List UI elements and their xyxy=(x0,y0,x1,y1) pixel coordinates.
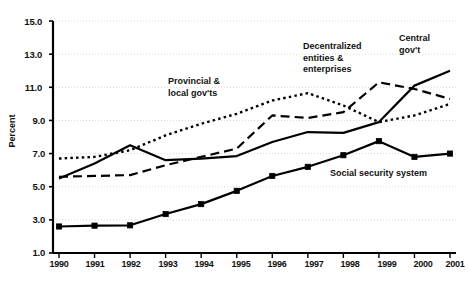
data-series-layer xyxy=(59,71,450,227)
x-tick-label-1995: 1995 xyxy=(223,259,259,269)
y-tick-label-13: 13.0 xyxy=(12,49,42,60)
annotation-decentralized-line3: enterprises xyxy=(303,64,362,76)
annotation-leader xyxy=(413,57,423,70)
y-tick-label-5: 5.0 xyxy=(15,181,45,192)
annotation-central-govt: Central gov't xyxy=(399,33,430,56)
axis-lines xyxy=(53,21,456,253)
data-point-marker xyxy=(305,164,310,169)
y-tick-label-3: 3.0 xyxy=(15,214,45,225)
data-point-marker xyxy=(199,202,204,207)
annotation-social-security-system: Social security system xyxy=(330,168,427,180)
y-tick-label-9: 9.0 xyxy=(15,115,45,126)
x-tick-label-1996: 1996 xyxy=(259,259,295,269)
y-tick-label-1: 1.0 xyxy=(15,247,45,258)
data-point-marker xyxy=(341,153,346,158)
x-tick-label-1994: 1994 xyxy=(186,259,222,269)
data-point-marker xyxy=(92,223,97,228)
x-tick-label-1992: 1992 xyxy=(113,259,149,269)
x-tick-label-1990: 1990 xyxy=(41,259,77,269)
annotation-decentralized-line1: Decentralized xyxy=(303,41,362,53)
data-point-marker xyxy=(270,173,275,178)
x-tick-label-1999: 1999 xyxy=(369,259,405,269)
series-line-2 xyxy=(59,82,450,176)
annotation-decentralized-entities: Decentralized entities & enterprises xyxy=(303,41,362,76)
x-tick-label-2001: 2001 xyxy=(437,259,470,269)
data-point-marker xyxy=(163,211,168,216)
data-point-marker xyxy=(234,188,239,193)
x-tick-label-1997: 1997 xyxy=(296,259,332,269)
data-point-marker xyxy=(412,154,417,159)
y-tick-label-15: 15.0 xyxy=(12,16,42,27)
annotation-decentralized-line2: entities & xyxy=(303,53,362,65)
data-point-marker xyxy=(447,151,452,156)
gridlines xyxy=(53,21,456,220)
annotation-central-line2: gov't xyxy=(399,45,430,57)
series-line-0 xyxy=(59,71,450,179)
x-tick-label-1998: 1998 xyxy=(332,259,368,269)
x-tick-label-1991: 1991 xyxy=(77,259,113,269)
data-point-marker xyxy=(56,224,61,229)
annotation-leader xyxy=(313,172,327,176)
annotation-provincial-local-govts: Provincial & local gov'ts xyxy=(168,76,220,99)
data-point-marker xyxy=(127,223,132,228)
y-tick-label-11: 11.0 xyxy=(12,82,42,93)
annotation-central-line1: Central xyxy=(399,33,430,45)
annotation-provincial-line1: Provincial & xyxy=(168,76,220,88)
x-tick-label-2000: 2000 xyxy=(405,259,441,269)
x-tick-label-1993: 1993 xyxy=(150,259,186,269)
annotation-provincial-line2: local gov'ts xyxy=(168,88,220,100)
y-tick-label-7: 7.0 xyxy=(15,148,45,159)
data-point-marker xyxy=(376,139,381,144)
